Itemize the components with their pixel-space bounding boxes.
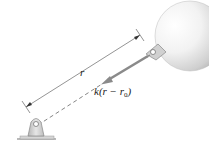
sphere: [155, 1, 209, 71]
ground-support-icon: [17, 119, 56, 140]
spring-dashed-line: [38, 84, 102, 125]
diagram-canvas: r k(r − r0): [0, 0, 209, 152]
force-label-prefix: k(r − r: [94, 85, 124, 97]
force-arrow: [101, 56, 148, 85]
distance-label: r: [80, 67, 84, 78]
force-label-suffix: ): [128, 85, 132, 97]
diagram-svg: [0, 0, 209, 152]
force-label: k(r − r0): [94, 86, 131, 99]
